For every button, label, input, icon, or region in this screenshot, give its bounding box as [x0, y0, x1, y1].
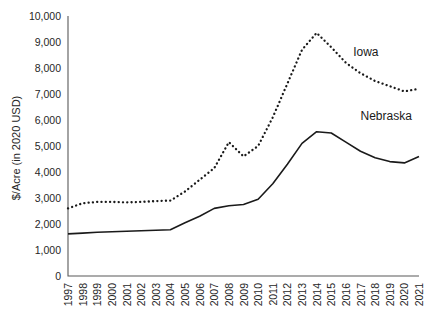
x-tick-label: 1997 — [62, 283, 74, 307]
x-tick-label: 2018 — [369, 283, 381, 307]
x-tick-label: 2020 — [398, 283, 410, 307]
x-tick-label: 2004 — [164, 283, 176, 307]
y-axis-title-group: $/Acre (in 2020 USD) — [10, 96, 22, 201]
y-axis-tick-labels: 01,0002,0003,0004,0005,0006,0007,0008,00… — [29, 10, 61, 282]
y-tick-label: 7,000 — [35, 88, 61, 100]
x-tick-label: 2006 — [194, 283, 206, 307]
x-tick-label: 2016 — [340, 283, 352, 307]
series-line-nebraska — [68, 132, 419, 234]
x-tick-label: 2021 — [413, 283, 425, 307]
series-label-iowa: Iowa — [353, 45, 379, 59]
y-tick-label: 2,000 — [35, 218, 61, 230]
x-tick-label: 2017 — [355, 283, 367, 307]
y-axis-title: $/Acre (in 2020 USD) — [10, 96, 22, 201]
chart-container: $/Acre (in 2020 USD) 01,0002,0003,0004,0… — [0, 0, 434, 327]
y-tick-label: 0 — [55, 270, 61, 282]
x-tick-label: 2011 — [267, 283, 279, 306]
y-tick-label: 6,000 — [35, 114, 61, 126]
y-tick-label: 8,000 — [35, 62, 61, 74]
x-tick-label: 2015 — [325, 283, 337, 307]
x-tick-label: 2008 — [223, 283, 235, 307]
series-label-nebraska: Nebraska — [361, 109, 413, 123]
y-tick-label: 5,000 — [35, 140, 61, 152]
x-tick-label: 2005 — [179, 283, 191, 307]
y-tick-label: 4,000 — [35, 166, 61, 178]
x-tick-label: 2000 — [106, 283, 118, 307]
x-tick-label: 2019 — [384, 283, 396, 307]
y-tick-label: 10,000 — [29, 10, 61, 22]
y-tick-label: 3,000 — [35, 192, 61, 204]
y-tick-label: 9,000 — [35, 36, 61, 48]
x-tick-label: 1998 — [77, 283, 89, 307]
line-chart: $/Acre (in 2020 USD) 01,0002,0003,0004,0… — [0, 0, 434, 327]
x-tick-label: 2002 — [135, 283, 147, 307]
y-tick-label: 1,000 — [35, 244, 61, 256]
x-tick-label: 2012 — [281, 283, 293, 307]
x-tick-label: 2013 — [296, 283, 308, 307]
x-tick-label: 2003 — [150, 283, 162, 307]
x-tick-label: 2009 — [238, 283, 250, 307]
x-tick-label: 2001 — [121, 283, 133, 307]
data-series-group — [68, 33, 419, 234]
x-tick-label: 1999 — [91, 283, 103, 307]
x-tick-label: 2010 — [252, 283, 264, 307]
x-tick-label: 2014 — [311, 283, 323, 307]
x-axis-tick-labels: 1997199819992000200120022003200420052006… — [62, 283, 425, 307]
x-tick-label: 2007 — [208, 283, 220, 307]
